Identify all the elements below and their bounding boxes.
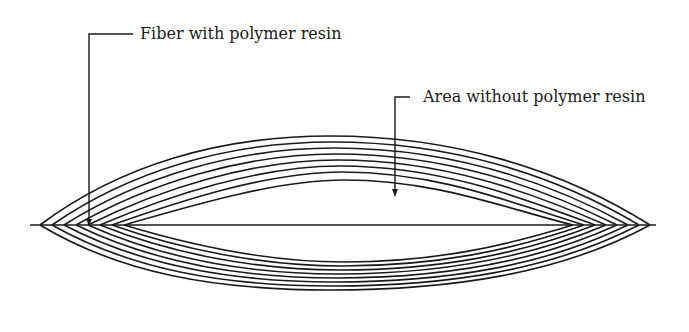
fiber-leader-line bbox=[86, 34, 133, 226]
fiber-with-resin-label: Fiber with polymer resin bbox=[140, 26, 341, 42]
area-without-resin-label: Area without polymer resin bbox=[423, 89, 645, 105]
fiber-layer-top-6 bbox=[100, 166, 595, 225]
bottom-fiber-layers bbox=[40, 225, 650, 290]
diagram-canvas bbox=[0, 0, 689, 332]
top-fiber-layers bbox=[40, 136, 650, 225]
area-arrow-head-icon bbox=[392, 189, 398, 197]
lens-fiber-diagram: Fiber with polymer resin Area without po… bbox=[0, 0, 689, 332]
fiber-layer-top-5 bbox=[88, 160, 606, 225]
